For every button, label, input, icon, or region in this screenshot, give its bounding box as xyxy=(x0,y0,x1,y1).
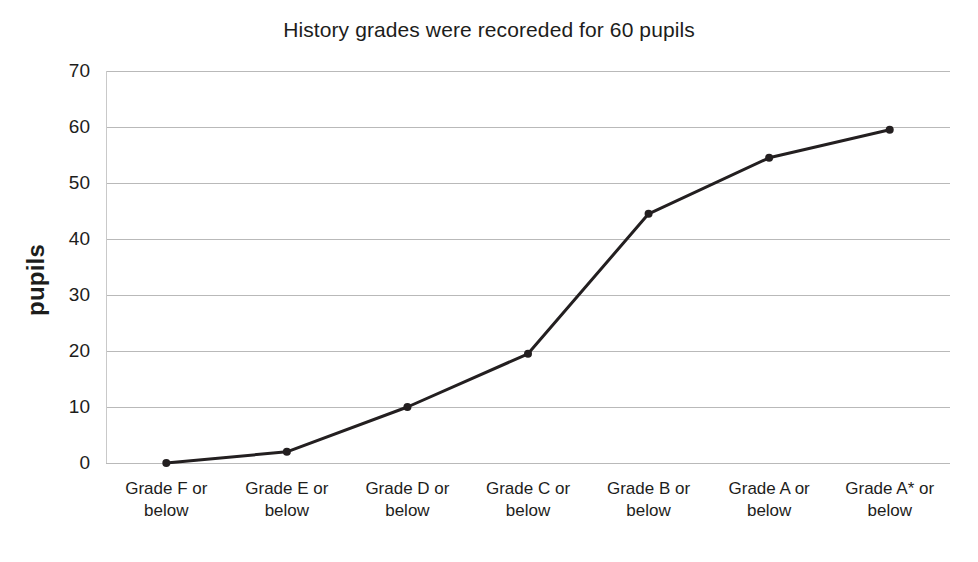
data-point-marker xyxy=(645,210,653,218)
data-point-marker xyxy=(765,154,773,162)
data-point-marker xyxy=(403,403,411,411)
gridlines xyxy=(106,72,950,464)
cumulative-frequency-chart: History grades were recoreded for 60 pup… xyxy=(0,0,978,562)
data-series-line xyxy=(166,130,889,463)
data-point-marker xyxy=(886,126,894,134)
data-point-marker xyxy=(283,448,291,456)
data-point-marker xyxy=(524,350,532,358)
data-series-markers xyxy=(162,126,893,467)
plot-area xyxy=(0,0,978,562)
data-point-marker xyxy=(162,459,170,467)
